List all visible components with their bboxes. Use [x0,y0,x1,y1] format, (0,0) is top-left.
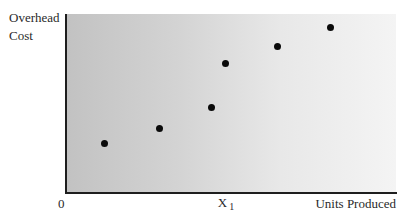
x1-main: X [218,195,227,210]
x-axis-line [65,192,397,194]
x1-subscript: 1 [229,201,234,212]
data-point [327,24,334,31]
data-point [156,125,163,132]
data-point [222,60,229,67]
y-axis-label: Overhead Cost [9,9,60,45]
y-axis-line [65,14,67,194]
data-point [208,104,215,111]
scatter-chart: Overhead Cost 0 X1 Units Produced [0,0,405,213]
data-point [101,140,108,147]
x-axis-label: Units Produced [315,196,396,212]
x1-annotation-label: X1 [218,195,234,212]
origin-label: 0 [58,196,65,212]
data-point [274,43,281,50]
plot-area [66,14,396,193]
